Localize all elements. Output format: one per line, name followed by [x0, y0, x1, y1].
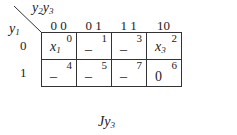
cell-index: 5 [102, 60, 108, 71]
cell-index: 0 [67, 33, 73, 44]
cell-index: 3 [137, 33, 143, 44]
cell-value-sub: 3 [161, 45, 166, 55]
cell-index: 1 [102, 33, 108, 44]
map-cell-0: 0x1 [42, 33, 77, 60]
cell-value: – [85, 70, 92, 84]
cell-index: 4 [67, 60, 73, 71]
map-row-0: 0x1 1– 3– 2x3 [42, 33, 182, 60]
cell-value: x1 [50, 40, 61, 57]
map-cell-7: 7– [112, 60, 147, 87]
map-cell-4: 4– [42, 60, 77, 87]
cell-value: – [120, 70, 127, 84]
row-var-sub: 1 [15, 27, 20, 37]
column-header-10: 10 [146, 19, 181, 32]
cell-index: 7 [137, 60, 143, 71]
cell-value: – [85, 43, 92, 57]
map-cell-1: 1– [77, 33, 112, 60]
map-cell-5: 5– [77, 60, 112, 87]
col-var-2-sub: 3 [49, 6, 54, 16]
row-variable-label: y1 [9, 21, 20, 37]
cell-value: – [120, 43, 127, 57]
row-header-0: 0 [20, 39, 27, 52]
map-title-sub: 3 [110, 120, 115, 130]
karnaugh-map-grid: 0x1 1– 3– 2x3 4– 5– 7– 60 [41, 32, 182, 87]
map-cell-3: 3– [112, 33, 147, 60]
cell-value: – [50, 70, 57, 84]
column-header-00: 0 0 [41, 19, 76, 32]
map-row-1: 4– 5– 7– 60 [42, 60, 182, 87]
map-title-main: Jy [98, 114, 110, 129]
row-header-1: 1 [20, 66, 27, 79]
column-header-11: 1 1 [111, 19, 146, 32]
column-variables-label: y2y3 [32, 0, 53, 16]
map-cell-6: 60 [147, 60, 182, 87]
cell-index: 2 [172, 33, 178, 44]
map-cell-2: 2x3 [147, 33, 182, 60]
cell-value: 0 [155, 70, 162, 84]
map-title: Jy3 [98, 114, 115, 130]
column-header-01: 0 1 [76, 19, 111, 32]
cell-index: 6 [172, 60, 178, 71]
cell-value: x3 [155, 40, 166, 57]
cell-value-sub: 1 [56, 45, 61, 55]
